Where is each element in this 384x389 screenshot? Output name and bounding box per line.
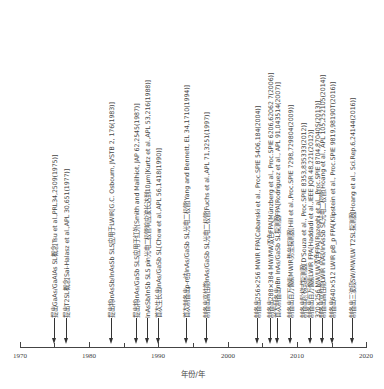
event-label: 提出GaAs/GaAlAs SL概念[Tsu et al.,PRL34,2509… bbox=[51, 155, 58, 318]
arrow-shaft bbox=[206, 318, 207, 339]
arrow-shaft bbox=[257, 318, 258, 339]
arrow-shaft bbox=[66, 318, 67, 339]
arrow-shaft bbox=[111, 318, 112, 339]
tick-1985 bbox=[124, 343, 125, 348]
arrow-down-icon bbox=[320, 338, 324, 344]
event-label: 提出将InAs/GaSb SLS应用于红外[Smith and Mailhiot… bbox=[133, 103, 140, 318]
tick-label-2020: 2020 bbox=[359, 352, 373, 360]
tick-1995 bbox=[193, 343, 194, 348]
event-label: 制备出百万像素MWIR势垒探测器[Hill et al.,Proc.SPIE 7… bbox=[287, 105, 294, 318]
event-label: 制备出百万像素LWIR FPA[Haddadi et al.,IEEE JQR … bbox=[307, 130, 314, 318]
arrow-shaft bbox=[270, 318, 271, 339]
event-label: 制备出288×384 MW/MW双色FPA[Münzberg et al., P… bbox=[267, 73, 274, 318]
event-label: 制备出640×512 LWIR pB_p FPA[Klipstein et al… bbox=[329, 82, 336, 318]
arrow-shaft bbox=[322, 318, 323, 339]
tick-label-2000: 2000 bbox=[221, 352, 235, 360]
tick-label-1980: 1980 bbox=[82, 352, 96, 360]
arrow-down-icon bbox=[145, 338, 149, 344]
event-label: InAsSb/InSb SLS pin光电二极管响应波长达到10μm[Kurtz… bbox=[144, 80, 151, 318]
event-label: 制备出256×256 MWIR FPA[Cabanski et al., Pro… bbox=[254, 106, 261, 318]
event-label: 制备出三波段SW/MW/LW T2SL探测器[Hoang et al., Sci… bbox=[349, 98, 356, 318]
event-label: 制备出高性能InAs/GaSb SL光电二极管[Fuchs et al.,APL… bbox=[203, 112, 210, 318]
tick-label-1990: 1990 bbox=[151, 352, 165, 360]
arrow-shaft bbox=[352, 318, 353, 339]
arrow-down-icon bbox=[268, 338, 272, 344]
event-label: 提出将InAsSb/InAsSb SLS应用于LWIR[G.C. Osbourn… bbox=[108, 102, 115, 318]
arrow-down-icon bbox=[308, 338, 312, 344]
arrow-shaft bbox=[158, 318, 159, 339]
arrow-down-icon bbox=[330, 338, 334, 344]
arrow-down-icon bbox=[64, 338, 68, 344]
arrow-down-icon bbox=[275, 338, 279, 344]
arrow-down-icon bbox=[255, 338, 259, 344]
arrow-down-icon bbox=[52, 338, 56, 344]
tick-label-2010: 2010 bbox=[290, 352, 304, 360]
arrow-shaft bbox=[54, 318, 55, 339]
arrow-down-icon bbox=[350, 338, 354, 344]
timeline-diagram: 1970 1980 1990 2000 2010 2020 年份/年 提出GaA… bbox=[0, 0, 384, 389]
arrow-shaft bbox=[136, 318, 137, 339]
event-label: 制备出高性能LWIR InAs/InAsSb SL光电二极管[Hoang et … bbox=[319, 75, 326, 318]
arrow-down-icon bbox=[184, 338, 188, 344]
arrow-shaft bbox=[310, 318, 311, 339]
event-label: 制备出阶梯式探测器[D'Souza et al., Proc.SPIE 8353… bbox=[300, 123, 307, 318]
tick-1980 bbox=[89, 342, 90, 348]
arrow-down-icon bbox=[156, 338, 160, 344]
arrow-down-icon bbox=[204, 338, 208, 344]
tick-label-1970: 1970 bbox=[13, 352, 27, 360]
axis-title: 年份/年 bbox=[181, 368, 205, 379]
arrow-shaft bbox=[290, 318, 291, 339]
tick-2010 bbox=[297, 342, 298, 348]
arrow-shaft bbox=[277, 318, 278, 339]
tick-1970 bbox=[20, 342, 21, 348]
event-label: 首次制备出nBn InAs/GaSb SL探测器FPA[Rodriguez et… bbox=[274, 82, 281, 318]
tick-2020 bbox=[366, 342, 367, 348]
arrow-down-icon bbox=[134, 338, 138, 344]
arrow-down-icon bbox=[109, 338, 113, 344]
event-label: 首次制备出p-n结InAs/GaSb SL光电二极管[Yang and Benn… bbox=[183, 85, 190, 318]
arrow-shaft bbox=[186, 318, 187, 339]
event-label: 提出T2SL概念[Sai-Halasz et al.,APL 30,651(19… bbox=[63, 169, 70, 318]
arrow-shaft bbox=[147, 318, 148, 339]
event-label: 首次生长出InAs/GaSb SL[Chow et al.,APL 56,141… bbox=[155, 148, 162, 318]
arrow-shaft bbox=[332, 318, 333, 339]
tick-2005 bbox=[262, 343, 263, 348]
arrow-down-icon bbox=[288, 338, 292, 344]
tick-2000 bbox=[228, 342, 229, 348]
